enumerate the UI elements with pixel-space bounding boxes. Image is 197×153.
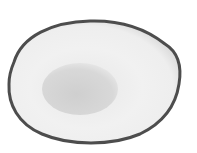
avocado-pit — [42, 63, 118, 115]
avocado-image — [0, 0, 197, 153]
avocado-illustration — [0, 0, 197, 153]
